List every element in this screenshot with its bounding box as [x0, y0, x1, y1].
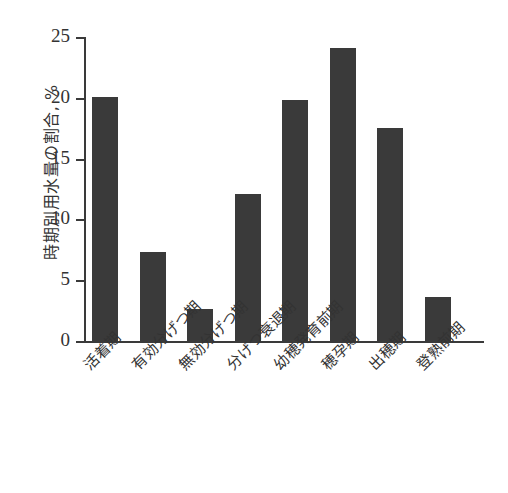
x-axis-label: 登熟前期 — [413, 319, 467, 373]
x-axis-label: 活着期 — [81, 330, 125, 374]
bar-chart-figure: 時期別用水量の割合, % 0510152025 活着期有効分げつ期無効分げつ期分… — [0, 0, 508, 493]
x-axis-label-group: 活着期有効分げつ期無効分げつ期分げつ衰退期幼穂発育前期穂孕期出穂期登熟前期 — [0, 0, 508, 493]
x-axis-label: 出穂期 — [366, 330, 410, 374]
x-axis-label: 穂孕期 — [318, 330, 362, 374]
